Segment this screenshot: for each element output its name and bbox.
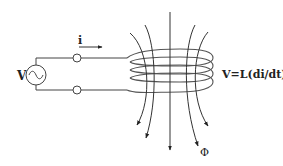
terminal-bottom-icon (73, 86, 81, 94)
equation-label: V=L(di/dt) (221, 68, 283, 81)
flux-label: Φ (200, 146, 209, 159)
inductor-diagram: V i V=L(di/dt) Φ (0, 0, 283, 166)
ac-source-icon (26, 65, 46, 85)
circuit-wires (36, 58, 127, 90)
terminal-top-icon (73, 54, 81, 62)
source-label: V (16, 69, 27, 83)
current-label: i (78, 34, 82, 47)
